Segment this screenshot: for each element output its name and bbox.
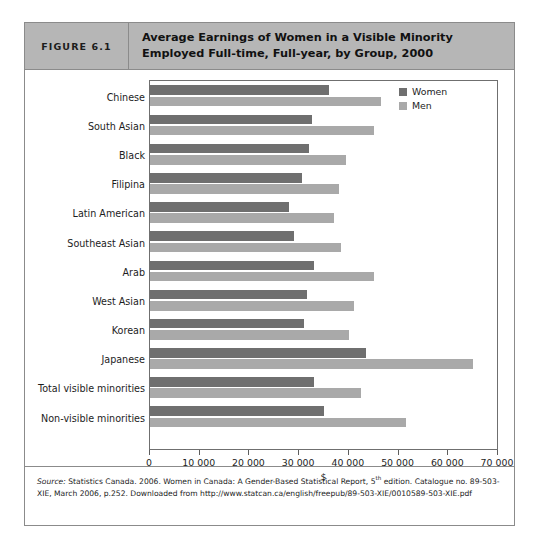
category-label: Arab [123,266,145,277]
bar-row: Black [25,140,516,169]
bar-row: Korean [25,316,516,345]
bar-women [150,115,312,125]
bar-row: Latin American [25,199,516,228]
legend-label-men: Men [412,100,432,111]
x-axis-tick [348,450,349,455]
category-label: Chinese [107,91,145,102]
category-label: Korean [112,325,145,336]
bar-men [150,330,349,340]
category-label: Total visible minorities [38,383,145,394]
bar-row: Total visible minorities [25,374,516,403]
bar-rows: ChineseSouth AsianBlackFilipinaLatin Ame… [25,82,516,432]
x-axis-tick [248,450,249,455]
bar-women [150,348,366,358]
bar-men [150,184,339,194]
chart-region: ChineseSouth AsianBlackFilipinaLatin Ame… [25,70,514,474]
bar-row: Japanese [25,345,516,374]
bar-row: South Asian [25,111,516,140]
bar-women [150,173,302,183]
bar-row: Non-visible minorities [25,403,516,432]
figure-header: FIGURE 6.1 Average Earnings of Women in … [25,23,514,70]
category-label: Japanese [101,354,145,365]
bar-men [150,213,334,223]
bar-pair [150,403,498,432]
legend-item-men: Men [399,100,447,111]
bar-women [150,319,304,329]
bar-pair [150,316,498,345]
category-label: South Asian [88,120,145,131]
chart-legend: Women Men [399,86,447,114]
bar-women [150,290,307,300]
category-label: Non-visible minorities [41,412,145,423]
legend-swatch-women-icon [399,88,407,96]
bar-row: Arab [25,257,516,286]
bar-row: West Asian [25,286,516,315]
bar-pair [150,199,498,228]
bar-women [150,261,314,271]
bar-men [150,243,341,253]
bar-pair [150,111,498,140]
category-label: Filipina [111,179,145,190]
x-axis-tick [199,450,200,455]
bar-pair [150,257,498,286]
bar-pair [150,345,498,374]
bar-pair [150,170,498,199]
bar-men [150,272,374,282]
source-text-part1: Statistics Canada. 2006. Women in Canada… [66,477,376,486]
bar-women [150,202,289,212]
bar-row: Southeast Asian [25,228,516,257]
x-axis-tick [447,450,448,455]
source-note: Source: Statistics Canada. 2006. Women i… [37,474,504,500]
bar-men [150,97,381,107]
x-axis-tick [398,450,399,455]
bar-women [150,377,314,387]
category-label: Black [119,149,145,160]
x-axis-tick [149,450,150,455]
bar-men [150,388,361,398]
bar-women [150,231,294,241]
x-axis-tick [497,450,498,455]
bar-pair [150,228,498,257]
figure-card: FIGURE 6.1 Average Earnings of Women in … [24,22,515,526]
bar-pair [150,374,498,403]
bar-row: Filipina [25,170,516,199]
bar-pair [150,140,498,169]
bar-women [150,406,324,416]
bar-men [150,155,346,165]
category-label: Southeast Asian [67,237,145,248]
source-divider [25,466,514,467]
bar-pair [150,286,498,315]
figure-number-label: FIGURE 6.1 [25,23,129,69]
bar-men [150,359,473,369]
legend-label-women: Women [412,86,447,97]
legend-swatch-men-icon [399,102,407,110]
bar-men [150,418,406,428]
bar-women [150,144,309,154]
category-label: West Asian [92,295,145,306]
bar-men [150,301,354,311]
bar-women [150,85,329,95]
bar-men [150,126,374,136]
category-label: Latin American [73,208,145,219]
source-prefix: Source: [37,477,66,486]
legend-item-women: Women [399,86,447,97]
x-axis-tick [298,450,299,455]
figure-title: Average Earnings of Women in a Visible M… [129,23,514,69]
